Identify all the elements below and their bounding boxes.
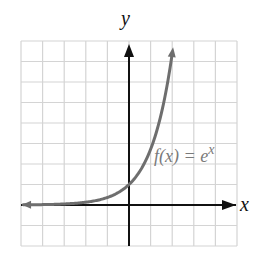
function-label-exponent: x bbox=[207, 142, 215, 157]
function-label: f(x) = ex bbox=[154, 142, 215, 167]
y-axis-arrow-icon bbox=[124, 44, 134, 57]
axes bbox=[21, 44, 236, 246]
x-axis-arrow-icon bbox=[222, 200, 236, 210]
x-axis-label: x bbox=[239, 193, 249, 215]
function-label-base: f(x) = e bbox=[154, 146, 208, 167]
curve-left-arrow-icon bbox=[22, 201, 31, 209]
curve-exponential bbox=[23, 54, 172, 205]
exponential-graph: y x f(x) = ex bbox=[0, 0, 261, 257]
y-axis-label: y bbox=[119, 7, 130, 30]
